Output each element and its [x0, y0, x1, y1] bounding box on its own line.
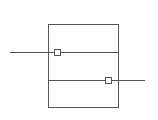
output-port-icon[interactable] [106, 78, 112, 84]
diagram-canvas [0, 0, 158, 120]
input-port-icon[interactable] [55, 50, 61, 56]
block-frame [49, 25, 119, 108]
